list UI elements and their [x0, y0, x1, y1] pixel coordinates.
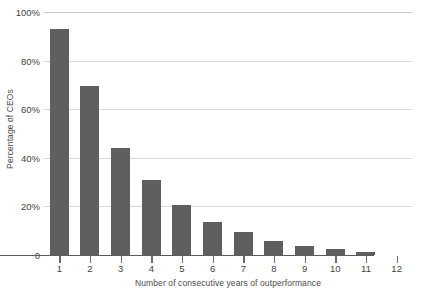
bar	[203, 222, 222, 255]
x-axis-tick	[151, 256, 152, 263]
y-axis-tick-labels: 100%80%60%40%20%0	[0, 0, 40, 298]
x-axis-tick-label: 10	[330, 263, 341, 274]
x-axis-tick	[366, 256, 367, 263]
x-axis-tick-label: 6	[210, 263, 215, 274]
x-axis-tick-label: 5	[179, 263, 184, 274]
bar	[80, 86, 99, 255]
x-axis-tick-label: 4	[149, 263, 154, 274]
x-axis-tick	[182, 256, 183, 263]
bar	[172, 205, 191, 255]
x-axis-tick-label: 2	[87, 263, 92, 274]
bar-series	[44, 12, 412, 255]
bar	[264, 241, 283, 255]
x-axis-tick	[90, 256, 91, 263]
y-axis-tick-label: 20%	[0, 201, 40, 212]
x-axis-tick	[121, 256, 122, 263]
y-axis-tick-label: 60%	[0, 104, 40, 115]
x-axis-tick	[274, 256, 275, 263]
bar-chart: Percentage of CEOs 100%80%60%40%20%0 123…	[0, 0, 425, 298]
x-axis-tick	[243, 256, 244, 263]
bar	[111, 148, 130, 255]
x-axis-tick	[335, 256, 336, 263]
x-axis-title: Number of consecutive years of outperfor…	[44, 278, 412, 288]
bar	[234, 232, 253, 255]
x-axis-tick-label: 3	[118, 263, 123, 274]
x-axis-tick	[213, 256, 214, 263]
bar	[142, 180, 161, 255]
y-axis-tick-label: 80%	[0, 55, 40, 66]
x-axis-tick-label: 7	[241, 263, 246, 274]
bar	[295, 246, 314, 255]
x-axis-tick-label: 1	[57, 263, 62, 274]
x-axis-tick-label: 9	[302, 263, 307, 274]
x-axis-tick-label: 12	[391, 263, 402, 274]
x-axis-tick-labels: 123456789101112	[44, 263, 412, 277]
x-axis-tick	[305, 256, 306, 263]
x-axis-tick-label: 8	[271, 263, 276, 274]
bar	[50, 29, 69, 255]
y-axis-tick-label: 40%	[0, 152, 40, 163]
x-axis-tick	[59, 256, 60, 263]
y-axis-tick-label: 100%	[0, 7, 40, 18]
x-axis-tick-label: 11	[361, 263, 371, 274]
x-axis-tick	[397, 256, 398, 263]
